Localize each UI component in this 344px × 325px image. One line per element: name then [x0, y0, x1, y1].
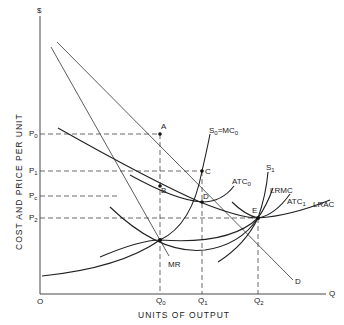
marginal-revenue-label: MR	[168, 260, 181, 269]
svg-text:Q0: Q0	[156, 296, 166, 306]
point-c	[200, 169, 204, 173]
quantity-label-q1: Q1	[198, 296, 208, 306]
svg-text:ATC0: ATC0	[232, 177, 251, 187]
s1-label: S1	[266, 163, 275, 173]
svg-text:P2: P2	[29, 213, 38, 223]
lrmc-curve	[42, 188, 273, 276]
atc1-label: ATC1	[287, 197, 306, 207]
cost-curves-diagram: $ Q O COST AND PRICE PER UNIT UNITS OF O…	[0, 0, 344, 325]
svg-text:S0=MC0: S0=MC0	[209, 126, 239, 136]
demand-curve	[57, 42, 293, 280]
lower-cost-curve	[110, 207, 258, 250]
lrmc-label: LRMC	[270, 186, 293, 195]
point-c-label: C	[205, 167, 211, 176]
origin-label: O	[37, 297, 43, 306]
y-axis-title: COST AND PRICE PER UNIT	[14, 113, 24, 250]
point-mr-intersection	[158, 238, 162, 242]
x-axis-symbol: Q	[329, 289, 335, 298]
marginal-revenue-curve	[51, 47, 169, 256]
point-d-label: D	[203, 192, 209, 201]
demand-label: D	[295, 277, 301, 286]
y-axis-symbol: $	[37, 6, 42, 15]
point-b-label: B	[161, 186, 166, 195]
price-label-p0: P0	[29, 129, 38, 139]
atc0-label: ATC0	[232, 177, 251, 187]
price-label-p1: P1	[29, 166, 38, 176]
point-e	[256, 216, 260, 220]
price-label-pc: Pc	[29, 191, 37, 201]
point-a-label: A	[161, 122, 167, 131]
x-axis-title: UNITS OF OUTPUT	[138, 310, 230, 320]
svg-text:ATC1: ATC1	[287, 197, 306, 207]
svg-text:Q2: Q2	[254, 296, 264, 306]
quantity-label-q2: Q2	[254, 296, 264, 306]
svg-text:Q1: Q1	[198, 296, 208, 306]
lrac-label: LRAC	[313, 200, 335, 209]
quantity-label-q0: Q0	[156, 296, 166, 306]
s0-mc0-curve	[100, 134, 210, 257]
point-e-label: E	[252, 206, 257, 215]
svg-text:P1: P1	[29, 166, 38, 176]
svg-text:S1: S1	[266, 163, 275, 173]
price-label-p2: P2	[29, 213, 38, 223]
point-a	[158, 132, 162, 136]
atc0-curve	[130, 175, 234, 202]
svg-text:Pc: Pc	[29, 191, 37, 201]
svg-text:P0: P0	[29, 129, 38, 139]
s0-mc0-label: S0=MC0	[209, 126, 239, 136]
